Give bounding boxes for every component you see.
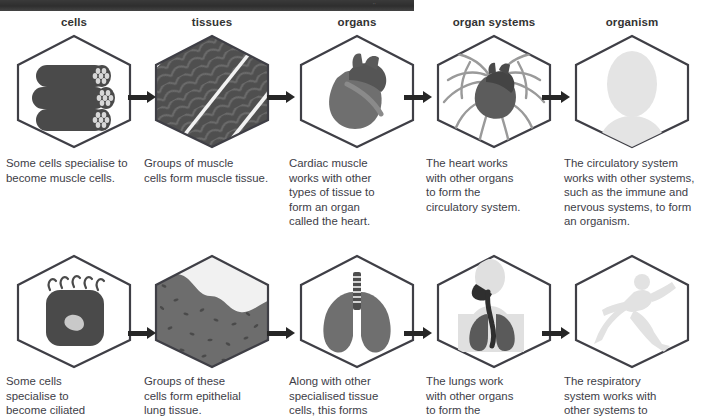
caption-text: The lungs work with other organs to form… [424,374,564,418]
caption-text: The circulatory system works with other … [562,156,702,229]
stage-tissues-respiratory: Groups of these cells form epithelial lu… [142,250,282,418]
muscle-tissue-icon [148,32,276,150]
stage-label-organ-systems: organ systems [424,14,564,30]
top-dark-bar: '' [0,0,414,11]
stage-label-cells: cells [4,14,144,30]
stage-tissues-circulatory: tissues [142,14,282,185]
stage-organ-systems-circulatory: organ systems [424,14,564,214]
caption-text: The heart works with other organs to for… [424,156,564,214]
stage-cells-respiratory: Some cells specialise to become ciliated [4,250,144,418]
muscle-cells-icon [10,32,138,150]
stage-organism-circulatory: organism The circulatory system works wi… [562,14,702,229]
caption-text: Along with other specialised tissue cell… [287,374,427,418]
lungs-icon [293,252,421,370]
flow-arrow [267,326,295,340]
stage-cells-circulatory: cells [4,14,144,185]
heart-icon [293,32,421,150]
flow-arrow [404,90,432,104]
lungs-in-torso-icon [430,252,558,370]
human-bust-silhouette-icon [568,32,696,150]
caption-text: Some cells specialise to become ciliated [4,374,144,418]
flow-arrow [542,90,570,104]
stage-label-organism: organism [562,14,702,30]
caption-text: Groups of muscle cells form muscle tissu… [142,156,282,185]
epithelial-tissue-icon [148,252,276,370]
ciliated-cell-icon [10,252,138,370]
topbar-faint-text: '' [373,2,376,8]
caption-text: Groups of these cells form epithelial lu… [142,374,282,418]
stage-label-organs: organs [287,14,427,30]
flow-arrow [404,326,432,340]
stage-organism-respiratory: The respiratory system works with other … [562,250,702,418]
stage-organs-circulatory: organs Cardiac muscle works with other t… [287,14,427,229]
flow-arrow [542,326,570,340]
caption-text: Some cells specialise to become muscle c… [4,156,144,185]
flow-arrow [128,326,156,340]
stage-label-tissues: tissues [142,14,282,30]
caption-text: The respiratory system works with other … [562,374,702,418]
caption-text: Cardiac muscle works with other types of… [287,156,427,229]
flow-arrow [267,90,295,104]
heart-vessels-icon [430,32,558,150]
flow-arrow [128,90,156,104]
running-person-silhouette-icon [568,252,696,370]
